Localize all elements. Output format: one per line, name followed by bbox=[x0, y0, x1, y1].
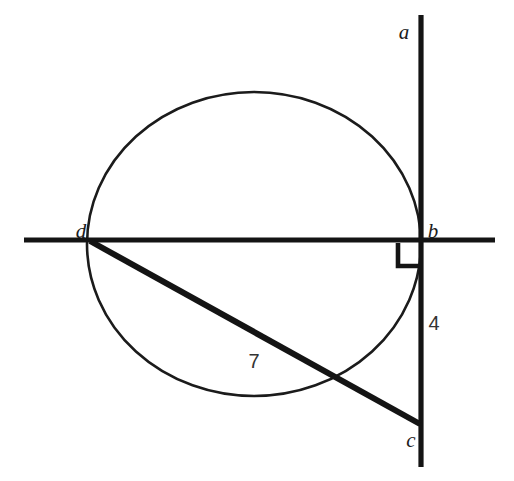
label-point-b: b bbox=[428, 219, 439, 243]
diagram-canvas: a b c d 4 7 bbox=[0, 0, 514, 481]
label-point-d: d bbox=[76, 219, 87, 243]
label-point-a: a bbox=[399, 20, 410, 44]
geometry-diagram: a b c d 4 7 bbox=[0, 0, 514, 481]
label-length-dc: 7 bbox=[248, 350, 259, 372]
label-point-c: c bbox=[406, 428, 416, 452]
label-length-bc: 4 bbox=[428, 312, 439, 334]
right-angle-marker-icon bbox=[398, 243, 421, 266]
